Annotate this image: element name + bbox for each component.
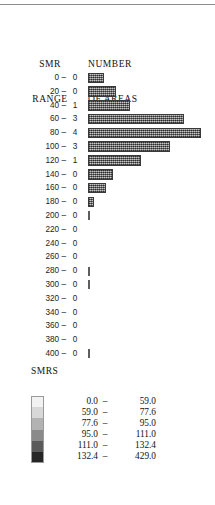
legend-low-value: 0.0 <box>56 396 98 408</box>
legend-low-value: 77.6 <box>56 418 98 430</box>
row-count-value: 0 <box>70 266 80 276</box>
row-bar-track <box>88 114 212 125</box>
row-bar-track <box>88 197 212 208</box>
row-range-label: 180 – <box>22 197 66 207</box>
row-range-label: 20 – <box>22 87 66 97</box>
legend-class-label: 111.0–132.4 <box>56 440 180 452</box>
row-count-value: 0 <box>70 321 80 331</box>
legend-class-label: 0.0–59.0 <box>56 396 180 408</box>
row-count-value: 0 <box>70 252 80 262</box>
legend-high-value: 59.0 <box>112 396 156 408</box>
row-range-label: 80 – <box>22 128 66 138</box>
histogram-row: 340 –0 <box>0 307 215 321</box>
row-count-value: 0 <box>70 335 80 345</box>
row-bar-track <box>88 238 212 249</box>
row-bar-track <box>88 224 212 235</box>
row-bar-track <box>88 141 212 152</box>
legend-dash: – <box>98 440 112 452</box>
histogram-row: 300 –0 <box>0 279 215 293</box>
legend-dash: – <box>98 418 112 430</box>
legend-color-swatch <box>31 430 44 441</box>
row-range-label: 360 – <box>22 321 66 331</box>
histogram-row: 240 –0 <box>0 238 215 252</box>
row-bar <box>88 141 170 152</box>
row-range-label: 120 – <box>22 156 66 166</box>
histogram-row: 20 –0 <box>0 86 215 100</box>
row-bar <box>88 86 116 97</box>
row-bar-tick <box>88 349 90 358</box>
legend-low-value: 95.0 <box>56 429 98 441</box>
row-count-value: 0 <box>70 87 80 97</box>
legend-high-value: 132.4 <box>112 440 156 452</box>
legend-color-swatch <box>31 418 44 429</box>
histogram-row: 220 –0 <box>0 224 215 238</box>
row-bar-track <box>88 86 212 97</box>
row-count-value: 1 <box>70 101 80 111</box>
row-count-value: 1 <box>70 156 80 166</box>
row-bar-track <box>88 279 212 290</box>
smr-histogram-figure: SMR RANGE NUMBER OF AREAS 0 –020 –040 –1… <box>0 0 215 505</box>
legend-color-swatch <box>31 452 44 463</box>
legend-title: SMRS <box>31 366 58 376</box>
histogram-row: 360 –0 <box>0 320 215 334</box>
row-bar-tick <box>88 211 90 220</box>
row-count-value: 0 <box>70 280 80 290</box>
row-count-value: 3 <box>70 114 80 124</box>
histogram-row: 180 –0 <box>0 196 215 210</box>
legend-class-row: 59.0–77.6 <box>0 407 215 418</box>
row-count-value: 0 <box>70 183 80 193</box>
row-range-label: 220 – <box>22 225 66 235</box>
row-range-label: 320 – <box>22 294 66 304</box>
legend-low-value: 59.0 <box>56 407 98 419</box>
legend-high-value: 95.0 <box>112 418 156 430</box>
row-range-label: 240 – <box>22 239 66 249</box>
legend-class-label: 95.0–111.0 <box>56 429 180 441</box>
row-bar-track <box>88 335 212 346</box>
row-count-value: 0 <box>70 170 80 180</box>
row-bar <box>88 73 104 84</box>
row-bar <box>88 169 113 180</box>
row-count-value: 0 <box>70 73 80 83</box>
legend-dash: – <box>98 396 112 408</box>
row-range-label: 400 – <box>22 349 66 359</box>
legend-class-label: 77.6–95.0 <box>56 418 180 430</box>
legend-class-row: 111.0–132.4 <box>0 441 215 452</box>
row-range-label: 60 – <box>22 114 66 124</box>
legend-class-row: 95.0–111.0 <box>0 430 215 441</box>
row-bar-track <box>88 183 212 194</box>
legend-dash: – <box>98 451 112 463</box>
row-range-label: 100 – <box>22 142 66 152</box>
histogram-row: 380 –0 <box>0 334 215 348</box>
row-bar <box>88 197 94 208</box>
row-bar-track <box>88 307 212 318</box>
row-bar-track <box>88 100 212 111</box>
row-bar <box>88 114 184 125</box>
row-range-label: 280 – <box>22 266 66 276</box>
histogram-row: 200 –0 <box>0 210 215 224</box>
legend-class-row: 132.4–429.0 <box>0 452 215 463</box>
legend-low-value: 111.0 <box>56 440 98 452</box>
row-bar-track <box>88 348 212 359</box>
row-range-label: 40 – <box>22 101 66 111</box>
top-divider-rule <box>0 4 215 5</box>
histogram-row: 280 –0 <box>0 265 215 279</box>
legend-dash: – <box>98 429 112 441</box>
row-bar <box>88 183 106 194</box>
row-bar-track <box>88 266 212 277</box>
row-range-label: 140 – <box>22 170 66 180</box>
row-range-label: 0 – <box>22 73 66 83</box>
row-count-value: 3 <box>70 142 80 152</box>
row-bar-track <box>88 128 212 139</box>
row-range-label: 200 – <box>22 211 66 221</box>
row-bar <box>88 100 130 111</box>
legend-color-swatch <box>31 396 44 407</box>
header-number-line1: NUMBER <box>88 59 172 71</box>
histogram-row: 100 –3 <box>0 141 215 155</box>
legend-dash: – <box>98 407 112 419</box>
row-bar-track <box>88 252 212 263</box>
row-count-value: 0 <box>70 239 80 249</box>
row-bar-track <box>88 155 212 166</box>
header-smr-line1: SMR <box>27 59 73 71</box>
row-range-label: 340 – <box>22 308 66 318</box>
row-bar-tick <box>88 280 90 289</box>
